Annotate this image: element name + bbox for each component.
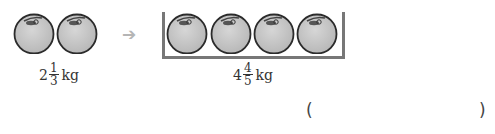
weight-unit: kg <box>256 67 273 83</box>
answer-open-paren: ( <box>306 100 313 120</box>
right-arrow-icon: ➔ <box>122 24 136 44</box>
weight-unit: kg <box>62 67 79 83</box>
answer-blank[interactable] <box>318 102 478 122</box>
weight-fraction: 1 3 <box>49 62 59 87</box>
ball-icon <box>56 12 98 54</box>
fraction-denominator: 5 <box>244 75 252 87</box>
weight-whole: 2 <box>39 67 48 83</box>
weight-whole: 4 <box>233 67 242 83</box>
ball-icon <box>166 12 208 54</box>
answer-close-paren: ) <box>479 100 486 120</box>
left-weight-label: 2 1 3 kg <box>39 62 79 87</box>
weight-fraction: 4 5 <box>243 62 253 87</box>
ball-icon <box>13 12 55 54</box>
ball-icon <box>253 12 295 54</box>
right-weight-label: 4 4 5 kg <box>233 62 273 87</box>
ball-icon <box>296 12 338 54</box>
ball-icon <box>210 12 252 54</box>
fraction-denominator: 3 <box>50 75 58 87</box>
